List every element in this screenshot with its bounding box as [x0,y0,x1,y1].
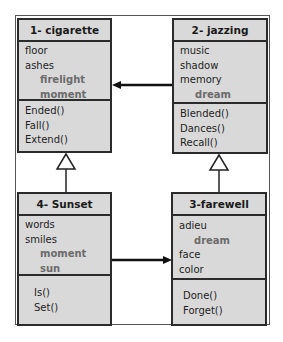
attributes-section: adieu dream face color [173,216,265,280]
class-jazzing[interactable]: 2- jazzing music shadow memory dream Ble… [172,18,268,154]
operations-section: Is() Set() [19,276,110,315]
operation: Is() [34,286,110,301]
operation: Recall() [180,136,266,151]
attribute: music [180,44,266,59]
attribute: adieu [179,219,265,234]
operation: Extend() [25,133,110,148]
attribute: ashes [25,59,110,74]
class-title: 1- cigarette [19,20,110,42]
class-title: 2- jazzing [174,20,266,42]
operation: Ended() [25,104,110,119]
class-title: 4- Sunset [19,194,110,216]
attributes-section: words smiles moment sun [19,216,110,276]
class-farewell[interactable]: 3-farewell adieu dream face color Done()… [171,192,267,326]
operation: Dances() [180,122,266,137]
attribute: color [179,263,265,278]
operation: Forget() [183,304,265,319]
sub-attribute: moment [25,247,110,262]
attributes-section: music shadow memory dream [174,42,266,104]
generalization-sunset-to-cigarette [57,154,75,193]
operation: Set() [34,301,110,316]
association-arrow-sunset-to-farewell [111,256,172,264]
generalization-farewell-to-jazzing [210,155,228,193]
class-title: 3-farewell [173,194,265,216]
sub-attribute: firelight [25,73,110,88]
sub-attribute: dream [179,234,265,249]
association-arrow-jazzing-to-cigarette [112,81,173,89]
operation: Fall() [25,119,110,134]
class-sunset[interactable]: 4- Sunset words smiles moment sun Is() S… [17,192,112,326]
operations-section: Blended() Dances() Recall() [174,104,266,151]
class-cigarette[interactable]: 1- cigarette floor ashes firelight momen… [17,18,112,153]
attributes-section: floor ashes firelight moment [19,42,110,101]
operation: Done() [183,289,265,304]
operations-section: Done() Forget() [173,280,265,318]
sub-attribute: sun [25,262,110,277]
sub-attribute: dream [180,88,266,103]
operation: Blended() [180,107,266,122]
operations-section: Ended() Fall() Extend() [19,101,110,148]
attribute: floor [25,44,110,59]
attribute: shadow [180,59,266,74]
attribute: words [25,218,110,233]
attribute: memory [180,73,266,88]
attribute: face [179,248,265,263]
attribute: smiles [25,233,110,248]
sub-attribute: moment [25,88,110,103]
